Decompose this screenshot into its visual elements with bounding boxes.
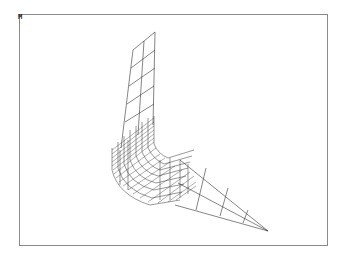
tapered-tail	[175, 160, 268, 231]
bend-region	[112, 116, 196, 205]
wireframe-mesh	[0, 0, 342, 259]
vertical-strip	[121, 32, 155, 148]
